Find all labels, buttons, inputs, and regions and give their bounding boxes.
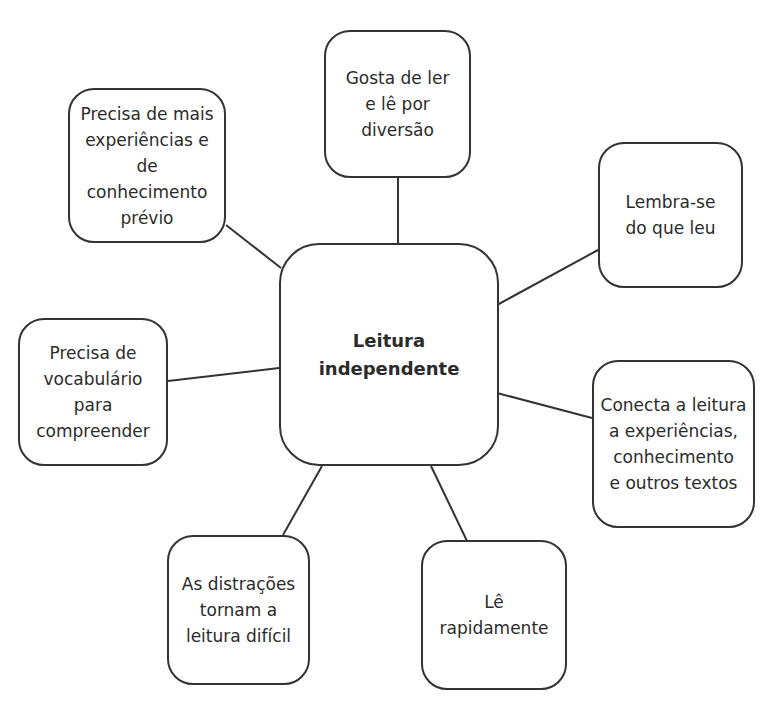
node-label: Lê rapidamente (439, 589, 548, 641)
node-distracoes: As distrações tornam a leitura difícil (167, 535, 310, 685)
node-gosta-de-ler: Gosta de ler e lê por diversão (324, 30, 471, 178)
node-conecta-leitura: Conecta a leitura a experiências, conhec… (592, 360, 755, 528)
node-label: Gosta de ler e lê por diversão (346, 65, 450, 143)
link-top-left (226, 225, 281, 268)
node-label: Lembra-se do que leu (626, 189, 716, 241)
center-node-leitura-independente: Leitura independente (279, 243, 499, 466)
node-label: Conecta a leitura a experiências, conhec… (601, 392, 747, 496)
node-le-rapidamente: Lê rapidamente (421, 540, 567, 690)
link-right-upper (497, 250, 598, 305)
node-label: As distrações tornam a leitura difícil (182, 571, 295, 649)
link-bottom-left (283, 466, 322, 535)
link-bottom-right (431, 466, 467, 541)
node-precisa-vocabulario: Precisa de vocabulário para compreender (18, 318, 168, 466)
link-left (168, 368, 279, 381)
center-node-label: Leitura independente (319, 327, 460, 383)
node-label: Precisa de mais experiências e de conhec… (76, 101, 218, 231)
node-label: Precisa de vocabulário para compreender (36, 340, 150, 444)
link-right-lower (497, 393, 592, 418)
node-precisa-experiencias: Precisa de mais experiências e de conhec… (68, 88, 226, 243)
node-lembra-se: Lembra-se do que leu (598, 142, 743, 288)
